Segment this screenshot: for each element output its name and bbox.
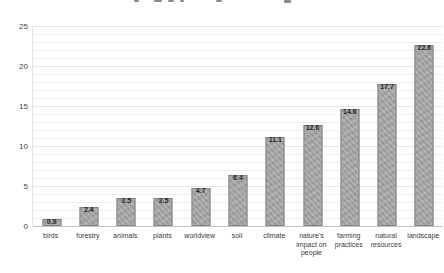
bar-group: 6.4 xyxy=(219,26,256,226)
y-tick-label: 10 xyxy=(4,142,28,151)
x-category-label: nature's impact on people xyxy=(293,232,330,258)
plot-area: 0.92.43.53.54.76.411.112.614.617.722.6 xyxy=(32,26,443,226)
bar-value-label: 12.6 xyxy=(306,125,320,133)
bar-group: 17.7 xyxy=(368,26,405,226)
x-category-label: farming practices xyxy=(330,232,367,258)
x-category-label: animals xyxy=(107,232,144,258)
bar-group: 22.6 xyxy=(406,26,443,226)
bar-group: 4.7 xyxy=(182,26,219,226)
bar: 17.7 xyxy=(378,84,397,226)
bar-value-label: 4.7 xyxy=(196,188,206,196)
bar-group: 3.5 xyxy=(145,26,182,226)
x-category-label: plants xyxy=(144,232,181,258)
bar-group: 0.9 xyxy=(33,26,70,226)
bar-value-label: 11.1 xyxy=(269,137,282,145)
bar: 12.6 xyxy=(303,125,322,226)
y-tick-label: 15 xyxy=(4,102,28,111)
bar: 2.4 xyxy=(79,207,98,226)
x-category-label: birds xyxy=(32,232,69,258)
bar: 22.6 xyxy=(415,45,434,226)
bar-value-label: 3.5 xyxy=(121,197,131,205)
bar-group: 14.6 xyxy=(331,26,368,226)
bar-value-label: 14.6 xyxy=(343,109,357,117)
y-tick-label: 25 xyxy=(4,22,28,31)
bar-value-label: 22.6 xyxy=(418,45,432,53)
bar-group: 11.1 xyxy=(257,26,294,226)
bar: 14.6 xyxy=(340,109,359,226)
x-category-label: worldview xyxy=(181,232,218,258)
bar-value-label: 3.5 xyxy=(159,197,169,205)
bar: 4.7 xyxy=(191,188,210,226)
bar-chart: 0.92.43.53.54.76.411.112.614.617.722.6 0… xyxy=(0,0,444,273)
bar-group: 3.5 xyxy=(108,26,145,226)
bar: 3.5 xyxy=(117,198,136,226)
bar-value-label: 6.4 xyxy=(233,174,243,182)
x-category-label: landscape xyxy=(405,232,442,258)
x-axis-labels: birdsforestryanimalsplantsworldviewsoilc… xyxy=(32,232,442,258)
x-category-label: climate xyxy=(256,232,293,258)
x-axis-line xyxy=(33,226,443,227)
bar: 11.1 xyxy=(266,137,285,226)
bar-value-label: 0.9 xyxy=(47,218,57,226)
bar: 6.4 xyxy=(228,175,247,226)
bar: 3.5 xyxy=(154,198,173,226)
cropped-chart-title xyxy=(128,0,328,4)
x-category-label: forestry xyxy=(69,232,106,258)
bar-group: 2.4 xyxy=(70,26,107,226)
bar-group: 12.6 xyxy=(294,26,331,226)
x-category-label: natural resources xyxy=(367,232,404,258)
y-tick-label: 5 xyxy=(4,182,28,191)
y-tick-label: 0 xyxy=(4,222,28,231)
y-tick-label: 20 xyxy=(4,62,28,71)
bar: 0.9 xyxy=(42,219,61,226)
bar-value-label: 17.7 xyxy=(380,84,394,92)
x-category-label: soil xyxy=(218,232,255,258)
bar-value-label: 2.4 xyxy=(84,206,94,214)
